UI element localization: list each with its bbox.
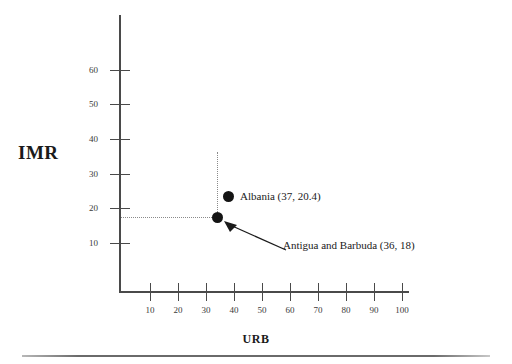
y-axis-tick xyxy=(110,174,130,175)
y-axis-tick xyxy=(110,208,130,209)
guide-line-vertical xyxy=(217,152,218,218)
y-axis-tick xyxy=(110,139,130,140)
x-axis-tick-label: 70 xyxy=(305,306,331,315)
scatter-plot-figure: 60 50 40 30 20 10 10 20 30 40 50 60 70 8… xyxy=(0,0,512,364)
data-point-albania[interactable] xyxy=(223,191,234,202)
x-axis-tick xyxy=(346,283,347,301)
y-axis-tick xyxy=(110,70,130,71)
x-axis-tick xyxy=(206,283,207,301)
x-axis-tick xyxy=(150,283,151,301)
y-axis-tick-label: 60 xyxy=(74,66,98,75)
data-point-label-albania: Albania (37, 20.4) xyxy=(240,191,321,202)
y-axis-title: IMR xyxy=(18,142,59,164)
x-axis-tick-label: 100 xyxy=(389,306,415,315)
x-axis-tick xyxy=(318,283,319,301)
y-axis-tick xyxy=(110,104,130,105)
y-axis-tick-label: 20 xyxy=(74,204,98,213)
x-axis-title: URB xyxy=(0,332,512,347)
x-axis-tick xyxy=(402,283,403,301)
y-axis-tick-label: 30 xyxy=(74,170,98,179)
x-axis-tick-label: 50 xyxy=(249,306,275,315)
data-point-antigua-and-barbuda[interactable] xyxy=(212,212,223,223)
x-axis-tick xyxy=(178,283,179,301)
x-axis-tick xyxy=(262,283,263,301)
x-axis-tick-label: 10 xyxy=(137,306,163,315)
y-axis-tick-label: 40 xyxy=(74,135,98,144)
x-axis-tick xyxy=(374,283,375,301)
footer-divider xyxy=(22,355,490,357)
y-axis-tick xyxy=(110,243,130,244)
x-axis-tick-label: 20 xyxy=(165,306,191,315)
x-axis-tick-label: 30 xyxy=(193,306,219,315)
guide-line-horizontal xyxy=(121,217,218,218)
data-point-label-antigua-and-barbuda: Antigua and Barbuda (36, 18) xyxy=(283,240,415,251)
y-axis-tick-label: 50 xyxy=(74,100,98,109)
x-axis-tick xyxy=(234,283,235,301)
y-axis-tick-label: 10 xyxy=(74,239,98,248)
x-axis-tick-label: 80 xyxy=(333,306,359,315)
x-axis-tick xyxy=(290,283,291,301)
x-axis-tick-label: 60 xyxy=(277,306,303,315)
x-axis-line xyxy=(119,291,409,293)
x-axis-tick-label: 40 xyxy=(221,306,247,315)
x-axis-tick-label: 90 xyxy=(361,306,387,315)
y-axis-line xyxy=(119,15,121,293)
